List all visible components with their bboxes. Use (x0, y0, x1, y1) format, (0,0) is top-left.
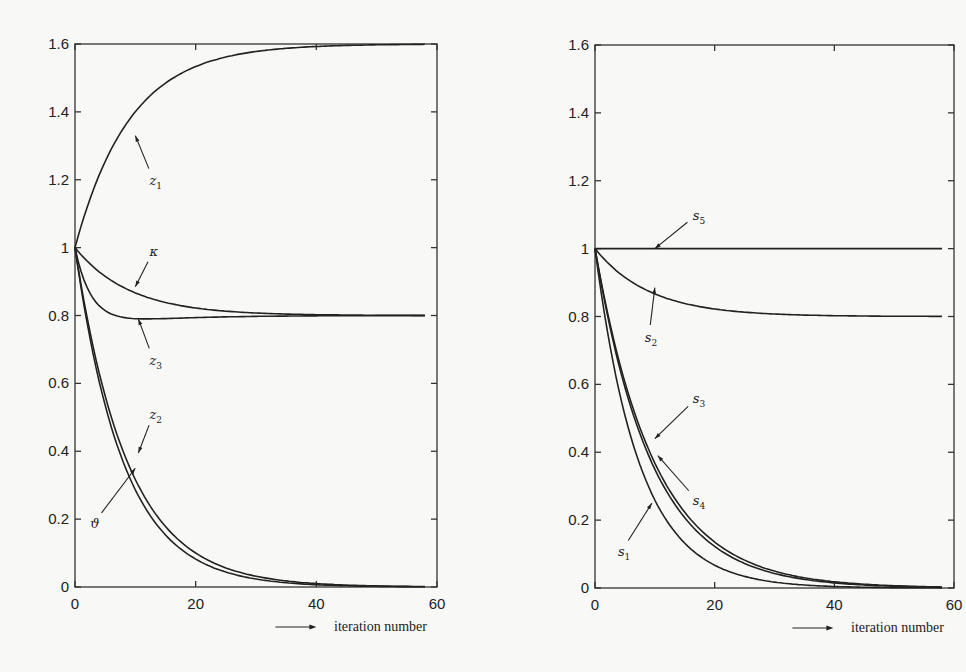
series-line-z1 (75, 44, 425, 247)
y-tick-label: 1.4 (48, 103, 69, 120)
y-tick-label: 0 (581, 579, 589, 596)
x-tick-label: 40 (826, 596, 843, 613)
y-tick-label: 0.8 (568, 308, 589, 325)
x-tick-label: 20 (187, 595, 204, 612)
x-tick-label: 0 (591, 596, 599, 613)
x-tick-label: 40 (308, 595, 325, 612)
series-label-s3: s3 (693, 391, 706, 409)
chart-left: 00.20.40.60.811.21.41.60204060z1κz3z2ϑit… (48, 35, 445, 634)
annotation-arrow (655, 406, 688, 438)
y-tick-label: 0.6 (568, 375, 589, 392)
series-label-s5: s5 (693, 208, 706, 226)
series-label-ϑ: ϑ (90, 516, 99, 531)
y-tick-label: 1 (61, 239, 69, 256)
x-axis-label: iteration number (851, 620, 944, 635)
x-tick-label: 20 (706, 596, 723, 613)
series-line-s3 (595, 249, 942, 587)
figure: 00.20.40.60.811.21.41.60204060z1κz3z2ϑit… (0, 0, 966, 672)
series-label-z2: z2 (148, 407, 162, 425)
y-tick-label: 1.6 (48, 35, 69, 52)
chart-right: 00.20.40.60.811.21.41.60204060s5s2s3s4s1… (568, 36, 962, 635)
y-tick-label: 0.4 (48, 442, 69, 459)
x-tick-label: 0 (71, 595, 79, 612)
x-tick-label: 60 (429, 595, 446, 612)
y-tick-label: 0.2 (48, 510, 69, 527)
series-label-s2: s2 (645, 330, 657, 348)
x-axis-label: iteration number (334, 619, 427, 634)
series-label-z3: z3 (148, 353, 162, 371)
y-tick-label: 1.2 (568, 172, 589, 189)
series-line-z2 (75, 248, 425, 587)
y-tick-label: 1 (581, 240, 589, 257)
annotation-arrow (102, 468, 136, 513)
y-tick-label: 1.2 (48, 171, 69, 188)
y-tick-label: 0 (61, 578, 69, 595)
series-line-s4 (595, 249, 942, 588)
series-line-s1 (595, 249, 942, 588)
y-tick-label: 1.6 (568, 36, 589, 53)
annotation-arrow (628, 503, 652, 540)
series-label-s4: s4 (693, 493, 706, 511)
series-label-s1: s1 (618, 544, 630, 562)
y-tick-label: 0.4 (568, 443, 589, 460)
y-tick-label: 0.6 (48, 374, 69, 391)
series-line-ϑ (75, 248, 425, 587)
series-label-z1: z1 (148, 173, 162, 191)
x-tick-label: 60 (946, 596, 963, 613)
series-line-κ (75, 248, 425, 316)
series-label-κ: κ (148, 244, 158, 259)
annotation-arrow (655, 222, 688, 248)
y-tick-label: 0.2 (568, 511, 589, 528)
y-tick-label: 1.4 (568, 104, 589, 121)
y-tick-label: 0.8 (48, 307, 69, 324)
series-line-s2 (595, 249, 942, 317)
series-line-z3 (75, 248, 425, 319)
